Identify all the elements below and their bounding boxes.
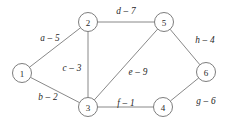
edge-label-d: d – 7 bbox=[116, 6, 136, 16]
edge-labels-layer: a – 5b – 2c – 3d – 7e – 9f – 1g – 6h – 4 bbox=[38, 6, 216, 108]
node-label-6: 6 bbox=[204, 68, 209, 78]
graph-edge-g bbox=[170, 78, 198, 101]
graph-edge-e bbox=[94, 29, 157, 100]
edge-label-f: f – 1 bbox=[117, 98, 135, 108]
graph-node-5[interactable]: 5 bbox=[155, 13, 174, 32]
edge-label-a: a – 5 bbox=[40, 33, 60, 43]
node-label-3: 3 bbox=[86, 103, 91, 113]
edge-label-g: g – 6 bbox=[196, 96, 216, 106]
node-label-4: 4 bbox=[161, 103, 166, 113]
edge-label-e: e – 9 bbox=[128, 67, 147, 77]
graph-node-1[interactable]: 1 bbox=[13, 64, 32, 83]
graph-node-3[interactable]: 3 bbox=[79, 98, 98, 117]
graph-figure: 123456 a – 5b – 2c – 3d – 7e – 9f – 1g –… bbox=[0, 0, 231, 125]
edge-label-b: b – 2 bbox=[38, 92, 58, 102]
node-label-5: 5 bbox=[162, 18, 167, 28]
edge-label-h: h – 4 bbox=[195, 35, 215, 45]
node-label-2: 2 bbox=[86, 18, 91, 28]
edge-label-c: c – 3 bbox=[62, 63, 81, 73]
graph-node-4[interactable]: 4 bbox=[154, 98, 173, 117]
graph-node-6[interactable]: 6 bbox=[197, 63, 216, 82]
graph-canvas: 123456 a – 5b – 2c – 3d – 7e – 9f – 1g –… bbox=[0, 0, 231, 125]
node-label-1: 1 bbox=[20, 69, 25, 79]
graph-node-2[interactable]: 2 bbox=[79, 13, 98, 32]
